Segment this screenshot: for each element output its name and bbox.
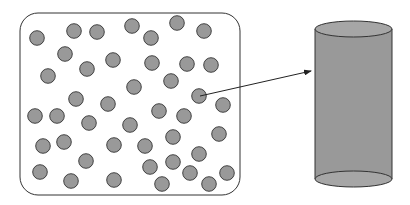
particle	[107, 173, 122, 188]
particle	[30, 31, 45, 46]
particle	[125, 19, 140, 34]
particle	[107, 138, 122, 153]
particle	[197, 24, 212, 39]
particle	[69, 92, 84, 107]
particle	[106, 53, 121, 68]
particle	[212, 127, 227, 142]
particle	[33, 165, 48, 180]
particle-container	[20, 13, 240, 195]
particle	[166, 130, 181, 145]
particle	[164, 74, 179, 89]
particle	[67, 24, 82, 39]
particle	[192, 147, 207, 162]
particle	[166, 155, 181, 170]
particle	[127, 80, 142, 95]
particle	[80, 62, 95, 77]
particle	[28, 109, 43, 124]
particle	[183, 166, 198, 181]
particle	[90, 25, 105, 40]
particle	[58, 47, 73, 62]
particle	[64, 174, 79, 189]
particle	[180, 57, 195, 72]
particle	[204, 58, 219, 73]
particle	[143, 160, 158, 175]
particle	[123, 118, 138, 133]
particle	[216, 98, 231, 113]
particle	[170, 16, 185, 31]
cylinder-body	[315, 29, 392, 179]
particle	[220, 166, 235, 181]
particle	[36, 139, 51, 154]
arrow	[200, 71, 311, 96]
particles-group	[28, 16, 235, 192]
particle	[144, 31, 159, 46]
cylinder-top-cap	[315, 21, 392, 37]
particle	[202, 177, 217, 192]
particle	[41, 69, 56, 84]
particle	[82, 116, 97, 131]
cylinder-bottom-cap	[315, 171, 392, 187]
particle	[177, 109, 192, 124]
particle	[79, 154, 94, 169]
particle	[101, 97, 116, 112]
cylinder	[315, 21, 392, 187]
particle	[155, 177, 170, 192]
particle	[152, 104, 167, 119]
particle	[57, 135, 72, 150]
diagram-canvas	[0, 0, 410, 205]
particle	[145, 56, 160, 71]
particle	[138, 139, 153, 154]
particle	[50, 109, 65, 124]
highlighted-particle	[192, 89, 207, 104]
